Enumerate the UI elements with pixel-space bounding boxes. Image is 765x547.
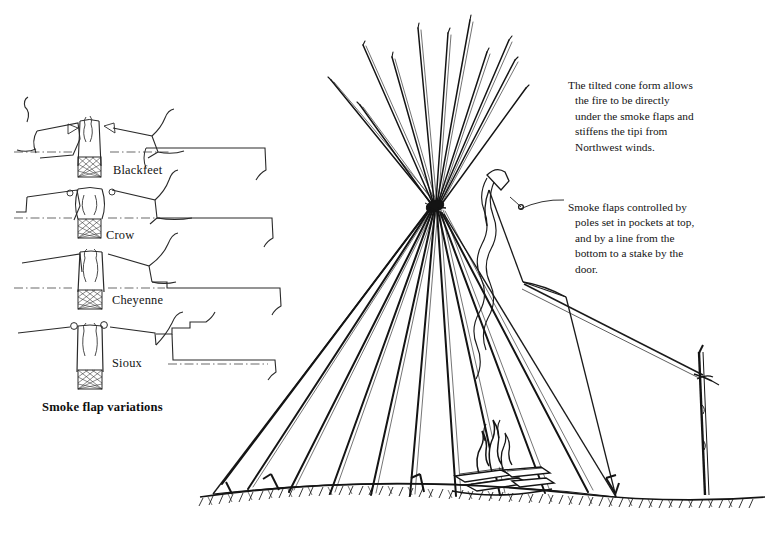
figure-canvas: The tilted cone form allows the fire to … [0,0,765,547]
smoke-flap-variations-caption: Smoke flap variations [42,400,163,415]
label-blackfeet: Blackfeet [113,163,162,178]
variation-crow [14,170,273,247]
annotation-tilted-cone: The tilted cone form allows the fire to … [568,78,695,155]
annotation-smoke-flaps: Smoke flaps controlled by poles set in p… [568,200,701,277]
variation-sioux [18,312,276,389]
label-cheyenne: Cheyenne [112,293,163,308]
label-sioux: Sioux [112,356,142,371]
label-crow: Crow [106,228,134,243]
